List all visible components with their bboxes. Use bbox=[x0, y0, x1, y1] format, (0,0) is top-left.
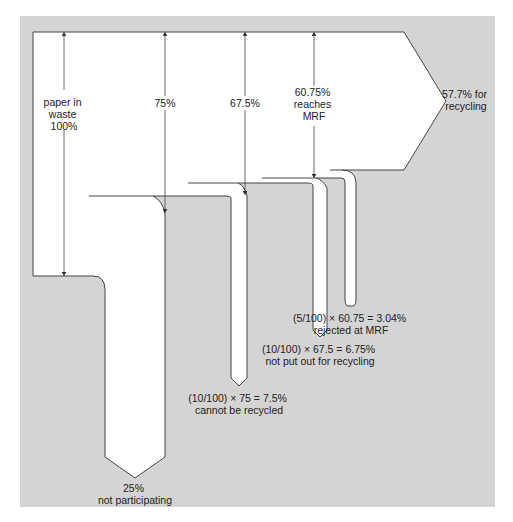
recycling-sankey-diagram: paper in waste 100% 75% 67.5% 60.75% rea… bbox=[0, 0, 513, 522]
label-75: 75% bbox=[154, 97, 175, 109]
label-for-recycling: 57.7% for recycling bbox=[442, 88, 490, 112]
label-67-5: 67.5% bbox=[230, 97, 260, 109]
label-not-put-out: (10/100) × 67.5 = 6.75% not put out for … bbox=[262, 343, 378, 367]
label-cannot-be-recycled: (10/100) × 75 = 7.5% cannot be recycled bbox=[188, 392, 290, 416]
